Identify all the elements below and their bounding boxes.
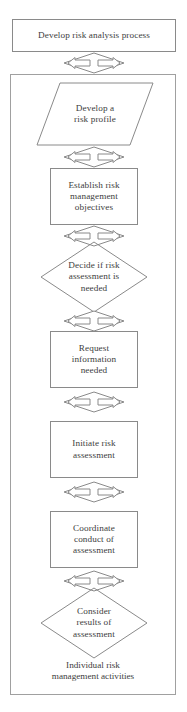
node-coordinate-conduct-of-assessment: Coordinate conduct of assessment bbox=[50, 511, 138, 568]
node-label: Develop a risk profile bbox=[36, 82, 154, 146]
node-individual-risk-management-activities: Individual risk management activities bbox=[14, 660, 172, 682]
connector-2-bidirectional-arrow-icon bbox=[63, 146, 125, 168]
node-request-information-needed: Request information needed bbox=[50, 331, 138, 388]
connector-6-bidirectional-arrow-icon bbox=[63, 481, 125, 503]
flowchart-canvas: Develop risk analysis process Develop a … bbox=[0, 0, 187, 712]
node-establish-risk-management-objectives: Establish risk management objectives bbox=[50, 168, 138, 225]
node-consider-results-of-assessment: Consider results of assessment bbox=[40, 587, 148, 659]
node-label: Decide if risk assessment is needed bbox=[40, 241, 148, 313]
node-label: Establish risk management objectives bbox=[51, 169, 137, 224]
node-label: Consider results of assessment bbox=[40, 587, 148, 659]
node-initiate-risk-assessment: Initiate risk assessment bbox=[50, 421, 138, 478]
connector-5-bidirectional-arrow-icon bbox=[63, 391, 125, 413]
node-develop-risk-analysis-process: Develop risk analysis process bbox=[12, 19, 176, 52]
node-label: Coordinate conduct of assessment bbox=[51, 512, 137, 567]
node-label: Request information needed bbox=[51, 332, 137, 387]
node-develop-a-risk-profile: Develop a risk profile bbox=[36, 82, 154, 146]
connector-1-bidirectional-arrow-icon bbox=[63, 52, 125, 74]
node-label: Initiate risk assessment bbox=[51, 422, 137, 477]
node-decide-if-risk-assessment-is-needed: Decide if risk assessment is needed bbox=[40, 241, 148, 313]
node-label: Develop risk analysis process bbox=[13, 20, 175, 51]
connector-4-bidirectional-arrow-icon bbox=[63, 310, 125, 332]
